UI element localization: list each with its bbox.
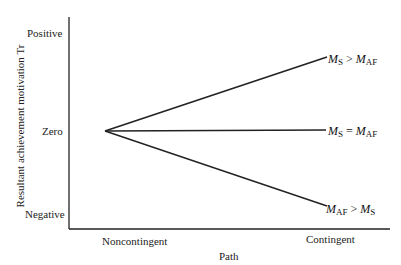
series-line-ms-greater — [105, 57, 327, 131]
x-axis-label: Path — [219, 250, 239, 262]
series-line-ms-equal — [105, 130, 326, 131]
y-tick-positive: Positive — [27, 27, 62, 39]
series-label-ms-equal: MS = MAF — [328, 124, 377, 139]
y-tick-negative: Negative — [25, 208, 65, 220]
x-tick-noncontingent: Noncontingent — [102, 235, 167, 247]
y-axis-label: Resultant achievement motivation Tr — [14, 26, 26, 226]
series-line-maf-greater — [105, 131, 327, 206]
x-tick-contingent: Contingent — [306, 233, 355, 245]
series-label-ms-greater: MS > MAF — [328, 52, 377, 67]
y-tick-zero: Zero — [42, 125, 63, 137]
series-label-maf-greater: MAF > MS — [326, 202, 375, 217]
